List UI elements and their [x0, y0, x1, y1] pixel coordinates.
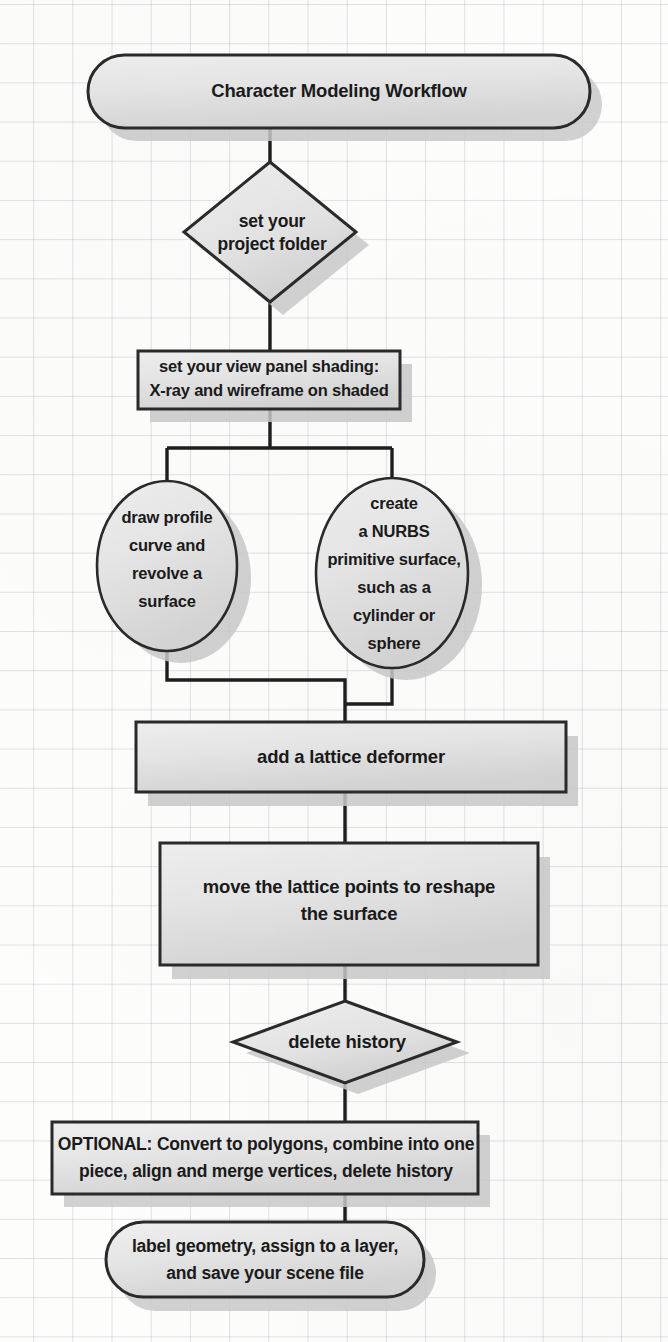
node-set-project-folder[interactable]: set your project folder: [184, 162, 356, 302]
create-nurbs-primitive-label-line1: create: [370, 494, 417, 512]
draw-profile-curve-label-line2: curve and: [129, 536, 205, 554]
node-optional-convert-polygons[interactable]: OPTIONAL: Convert to polygons, combine i…: [52, 1122, 478, 1194]
node-view-panel-shading[interactable]: set your view panel shading: X-ray and w…: [138, 351, 400, 409]
set-project-folder-label-line2: project folder: [217, 234, 326, 254]
delete-history-label: delete history: [288, 1031, 406, 1052]
create-nurbs-primitive-label-line3: primitive surface,: [327, 550, 460, 568]
create-nurbs-primitive-label-line5: cylinder or: [353, 606, 436, 624]
create-nurbs-primitive-label-line2: a NURBS: [358, 522, 429, 540]
set-project-folder-label-line1: set your: [239, 211, 306, 231]
move-lattice-points-label-line2: the surface: [301, 903, 398, 924]
label-geometry-save-stadium-shape: [106, 1222, 424, 1297]
node-label-geometry-save[interactable]: label geometry, assign to a layer, and s…: [106, 1222, 424, 1297]
add-lattice-deformer-label: add a lattice deformer: [257, 746, 445, 767]
move-lattice-points-label-line1: move the lattice points to reshape: [203, 876, 495, 897]
view-panel-shading-label-line2: X-ray and wireframe on shaded: [149, 381, 388, 399]
draw-profile-curve-label-line3: revolve a: [132, 564, 203, 582]
node-add-lattice-deformer[interactable]: add a lattice deformer: [136, 722, 566, 792]
label-geometry-save-label-line2: and save your scene file: [166, 1263, 364, 1283]
set-project-folder-diamond-shape: [184, 162, 356, 302]
draw-profile-curve-label-line4: surface: [138, 592, 195, 610]
create-nurbs-primitive-label-line6: sphere: [368, 634, 421, 652]
node-title[interactable]: Character Modeling Workflow: [88, 55, 590, 128]
node-create-nurbs-primitive[interactable]: create a NURBS primitive surface, such a…: [316, 478, 468, 668]
flowchart-canvas: Character Modeling Workflow set your pro…: [0, 0, 668, 1342]
view-panel-shading-label-line1: set your view panel shading:: [159, 357, 379, 375]
node-move-lattice-points[interactable]: move the lattice points to reshape the s…: [160, 843, 538, 965]
label-geometry-save-label-line1: label geometry, assign to a layer,: [132, 1236, 398, 1256]
optional-convert-polygons-label-line1: OPTIONAL: Convert to polygons, combine i…: [58, 1134, 475, 1154]
flowchart-diagram: Character Modeling Workflow set your pro…: [0, 0, 668, 1342]
node-delete-history[interactable]: delete history: [233, 1001, 457, 1083]
title-label: Character Modeling Workflow: [211, 80, 467, 101]
optional-convert-polygons-label-line2: piece, align and merge vertices, delete …: [79, 1161, 453, 1181]
node-draw-profile-curve[interactable]: draw profile curve and revolve a surface: [97, 481, 237, 651]
draw-profile-curve-label-line1: draw profile: [121, 508, 212, 526]
create-nurbs-primitive-label-line4: such as a: [357, 578, 431, 596]
